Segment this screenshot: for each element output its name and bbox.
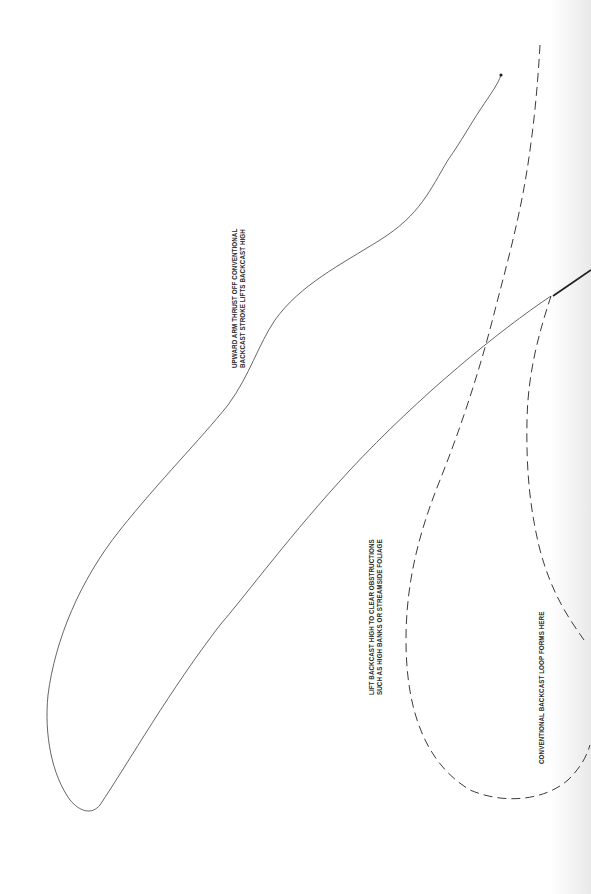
label-upward-line2: BACKCAST STROKE LIFTS BACKCAST HIGH (239, 229, 247, 368)
conventional-backcast-dashed-line (406, 45, 590, 799)
label-lift-backcast-high: LIFT BACKCAST HIGH TO CLEAR OBSTRUCTIONS… (368, 539, 384, 695)
diagram-page: UPWARD ARM THRUST OFF CONVENTIONAL BACKC… (0, 0, 591, 894)
line-end-dot (499, 73, 502, 76)
label-conventional-loop: CONVENTIONAL BACKCAST LOOP FORMS HERE (538, 612, 546, 764)
label-lift-line1: LIFT BACKCAST HIGH TO CLEAR OBSTRUCTIONS (368, 539, 376, 695)
label-conventional-line1: CONVENTIONAL BACKCAST LOOP FORMS HERE (538, 612, 546, 764)
conventional-loop-dashed-line (527, 296, 584, 640)
rod-segment (553, 270, 591, 296)
label-upward-line1: UPWARD ARM THRUST OFF CONVENTIONAL (231, 229, 239, 368)
label-upward-arm-thrust: UPWARD ARM THRUST OFF CONVENTIONAL BACKC… (231, 229, 247, 368)
high-backcast-line (47, 75, 551, 811)
casting-diagram (0, 0, 591, 894)
label-lift-line2: SUCH AS HIGH BANKS OR STREAMSIDE FOLIAGE (376, 539, 384, 695)
